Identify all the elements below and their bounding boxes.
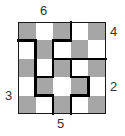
region-border	[52, 39, 72, 41]
grid-cell[interactable]	[88, 40, 106, 58]
grid-cell[interactable]	[18, 40, 36, 58]
grid-cell[interactable]	[71, 77, 89, 95]
region-border	[34, 39, 36, 97]
region-border	[70, 94, 90, 96]
grid-cell[interactable]	[71, 96, 89, 114]
grid-cell[interactable]	[88, 59, 106, 77]
grid-cell[interactable]	[88, 96, 106, 114]
grid-cell[interactable]	[36, 40, 54, 58]
clue-right-upper: 4	[110, 25, 117, 38]
grid-cell[interactable]	[36, 22, 54, 40]
puzzle-grid	[18, 22, 106, 114]
clue-top: 6	[40, 4, 47, 17]
clue-left: 3	[5, 89, 12, 102]
grid-cell[interactable]	[18, 22, 36, 40]
region-border	[70, 94, 72, 115]
clue-right-lower: 2	[110, 80, 117, 93]
grid-cell[interactable]	[71, 40, 89, 58]
grid-cell[interactable]	[53, 96, 71, 114]
region-border	[52, 94, 54, 115]
grid-cell[interactable]	[71, 22, 89, 40]
grid-cell[interactable]	[18, 77, 36, 95]
region-border	[34, 76, 54, 78]
region-border	[70, 76, 90, 78]
grid-cell[interactable]	[18, 59, 36, 77]
grid-cell[interactable]	[53, 22, 71, 40]
grid-cell[interactable]	[18, 96, 36, 114]
region-border	[34, 94, 54, 96]
region-border	[17, 39, 37, 41]
grid-cell[interactable]	[53, 77, 71, 95]
grid-cell[interactable]	[53, 40, 71, 58]
grid-cell[interactable]	[88, 77, 106, 95]
grid-cell[interactable]	[88, 22, 106, 40]
grid-cell[interactable]	[36, 96, 54, 114]
grid-cell[interactable]	[36, 77, 54, 95]
grid-cell[interactable]	[36, 59, 54, 77]
grid-cell[interactable]	[53, 59, 71, 77]
region-border	[52, 58, 107, 60]
clue-bottom: 5	[57, 117, 64, 130]
grid-cell[interactable]	[71, 59, 89, 77]
